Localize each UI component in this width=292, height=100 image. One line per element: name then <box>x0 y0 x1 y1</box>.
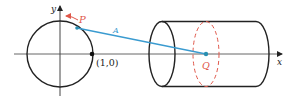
diagram-canvas: y x P (1,0) A Q <box>0 0 292 100</box>
point-p-dot <box>75 26 79 30</box>
point-q-dot <box>204 52 208 56</box>
x-axis-label: x <box>277 57 282 67</box>
segment-a <box>77 28 206 54</box>
point-unit-label: (1,0) <box>96 57 119 68</box>
point-unit-dot <box>90 52 95 57</box>
y-axis-label: y <box>50 4 57 14</box>
segment-a-label: A <box>112 26 119 35</box>
rotation-arrow-icon <box>66 16 78 20</box>
diagram-svg: y x P (1,0) A Q <box>0 0 292 100</box>
point-q-label: Q <box>202 60 210 71</box>
point-p-label: P <box>78 14 86 25</box>
